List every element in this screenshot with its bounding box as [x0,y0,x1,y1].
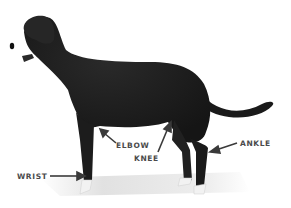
dog-anatomy-diagram: ELBOW KNEE ANKLE WRIST [0,0,291,208]
dog-mouth [22,54,34,62]
knee-arrow [158,122,171,152]
wrist-label: WRIST [17,172,47,181]
dog-tail [200,92,273,118]
ankle-arrow [210,143,237,153]
dog-nose [10,43,14,49]
dog-hind-paw-front [194,184,206,194]
knee-label: KNEE [134,154,159,163]
elbow-arrow [100,129,116,143]
elbow-label: ELBOW [116,141,149,150]
ankle-label: ANKLE [240,139,271,148]
